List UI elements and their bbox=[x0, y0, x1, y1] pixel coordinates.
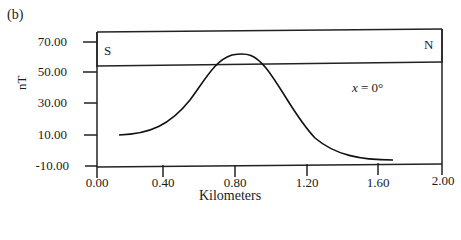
north-label: N bbox=[424, 37, 433, 53]
y-tick-label: 30.00 bbox=[7, 95, 67, 111]
y-axis-label: nT bbox=[14, 76, 30, 90]
x-tick-label: 1.60 bbox=[353, 175, 403, 191]
y-tick-label: 10.00 bbox=[7, 127, 67, 143]
x-tick-label: 1.20 bbox=[282, 175, 332, 191]
south-label: S bbox=[104, 43, 111, 59]
x-tick-label: 2.00 bbox=[418, 173, 461, 189]
x-tick-label: 0.00 bbox=[72, 175, 122, 191]
declination-annotation: x = 0° bbox=[352, 80, 383, 96]
y-tick-label: 70.00 bbox=[7, 34, 67, 50]
x-axis-label: Kilometers bbox=[175, 188, 285, 204]
y-tick-label: -10.00 bbox=[3, 158, 69, 174]
